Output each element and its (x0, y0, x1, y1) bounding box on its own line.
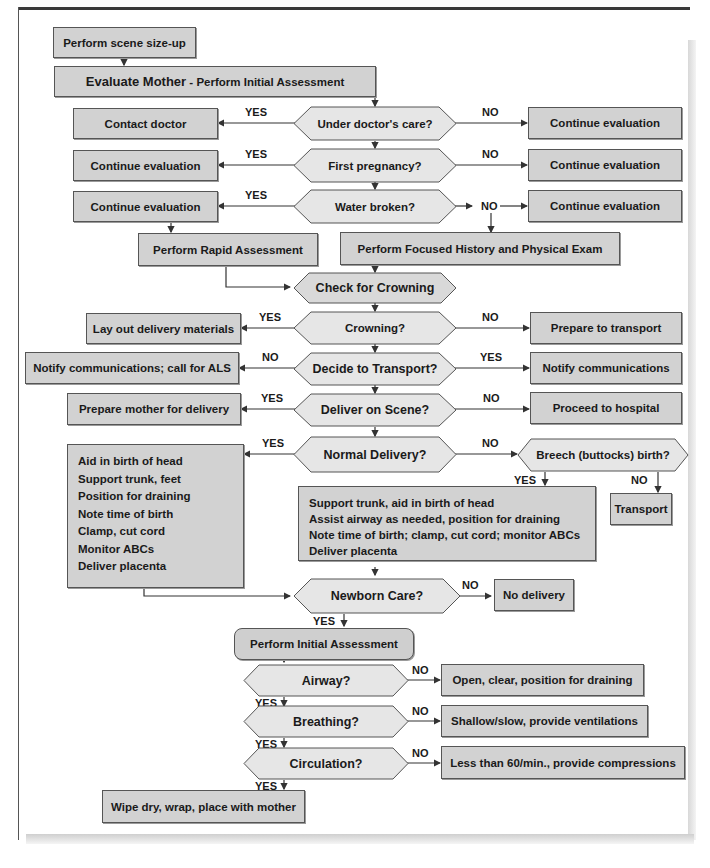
notify-als-label: Notify communications; call for ALS (33, 362, 231, 374)
focused-history-label: Perform Focused History and Physical Exa… (358, 243, 603, 255)
prepare-transport-box: Prepare to transport (530, 312, 682, 344)
contact-doctor-label: Contact doctor (105, 118, 187, 130)
decision-water-broken-label: Water broken? (335, 201, 415, 213)
continue-evaluation-box-1: Continue evaluation (528, 107, 682, 139)
contact-doctor-box: Contact doctor (73, 108, 218, 139)
step: Note time of birth (78, 506, 233, 524)
yes-label: YES (262, 437, 284, 449)
decision-circulation-label: Circulation? (290, 757, 363, 771)
decision-breech-label: Breech (buttocks) birth? (536, 449, 670, 461)
no-label: NO (483, 392, 500, 404)
evaluate-mother-title: Evaluate Mother (86, 74, 186, 89)
step: Aid in birth of head (78, 453, 233, 471)
decision-first-pregnancy: First pregnancy? (293, 148, 457, 183)
check-crowning-hex: Check for Crowning (293, 272, 457, 304)
continue-evaluation-box-3r: Continue evaluation (528, 190, 682, 222)
breech-steps-box: Support trunk, aid in birth of head Assi… (298, 486, 596, 561)
proceed-hospital-label: Proceed to hospital (553, 402, 660, 414)
decision-crowning: Crowning? (293, 311, 457, 345)
circulation-action-label: Less than 60/min., provide compressions (450, 757, 676, 769)
step: Position for draining (78, 488, 233, 506)
decision-airway: Airway? (243, 664, 409, 697)
decision-first-pregnancy-label: First pregnancy? (328, 160, 421, 172)
breathing-action-box: Shallow/slow, provide ventilations (441, 705, 648, 737)
no-label: NO (482, 311, 499, 323)
yes-label: YES (514, 474, 536, 486)
step: Monitor ABCs (78, 541, 233, 559)
airway-action-box: Open, clear, position for draining (441, 664, 644, 696)
no-label: NO (462, 579, 479, 591)
yes-label: YES (245, 189, 267, 201)
no-label: NO (262, 351, 279, 363)
notify-communications-label: Notify communications (542, 362, 669, 374)
no-delivery-label: No delivery (503, 589, 565, 601)
continue-evaluation-box-2r: Continue evaluation (528, 149, 682, 181)
initial-assessment-box: Perform Initial Assessment (234, 628, 414, 660)
decision-doctor-label: Under doctor's care? (317, 118, 432, 130)
yes-label: YES (259, 311, 281, 323)
notify-communications-box: Notify communications (530, 352, 682, 384)
check-crowning-label: Check for Crowning (316, 281, 435, 295)
prepare-transport-label: Prepare to transport (551, 322, 662, 334)
rapid-assessment-box: Perform Rapid Assessment (138, 233, 318, 266)
transport-box: Transport (610, 493, 672, 525)
decision-normal-delivery: Normal Delivery? (293, 436, 457, 473)
rapid-assessment-label: Perform Rapid Assessment (153, 244, 303, 256)
initial-assessment-label: Perform Initial Assessment (250, 638, 398, 650)
prepare-mother-box: Prepare mother for delivery (67, 393, 241, 425)
decision-normal-delivery-label: Normal Delivery? (324, 448, 427, 462)
yes-label: YES (245, 106, 267, 118)
decision-transport: Decide to Transport? (293, 352, 457, 386)
transport-label: Transport (614, 503, 667, 515)
decision-airway-label: Airway? (302, 674, 351, 688)
circulation-action-box: Less than 60/min., provide compressions (441, 746, 685, 779)
step: Clamp, cut cord (78, 523, 233, 541)
decision-circulation: Circulation? (243, 747, 409, 780)
no-label: NO (412, 705, 429, 717)
continue-label: Continue evaluation (550, 200, 660, 212)
final-care-box: Wipe dry, wrap, place with mother (102, 790, 305, 823)
no-label: NO (481, 200, 498, 212)
step: Note time of birth; clamp, cut cord; mon… (309, 527, 585, 543)
decision-breathing-label: Breathing? (293, 715, 359, 729)
airway-action-label: Open, clear, position for draining (452, 674, 632, 686)
final-care-label: Wipe dry, wrap, place with mother (111, 801, 296, 813)
no-label: NO (482, 437, 499, 449)
lay-out-materials-label: Lay out delivery materials (93, 323, 234, 335)
yes-label: YES (245, 148, 267, 160)
no-label: NO (631, 474, 648, 486)
decision-newborn-care: Newborn Care? (293, 578, 461, 614)
continue-evaluation-box-3l: Continue evaluation (73, 191, 218, 222)
continue-label: Continue evaluation (550, 117, 660, 129)
no-label: NO (412, 664, 429, 676)
scene-sizeup-label: Perform scene size-up (63, 37, 186, 49)
decision-deliver-scene-label: Deliver on Scene? (321, 403, 429, 417)
decision-water-broken: Water broken? (293, 189, 457, 224)
continue-label: Continue evaluation (91, 160, 201, 172)
no-label: NO (482, 106, 499, 118)
yes-label: YES (480, 351, 502, 363)
breathing-action-label: Shallow/slow, provide ventilations (451, 715, 638, 727)
no-delivery-box: No delivery (494, 579, 574, 611)
normal-delivery-steps-box: Aid in birth of head Support trunk, feet… (67, 444, 244, 588)
step: Deliver placenta (78, 558, 233, 576)
decision-breathing: Breathing? (243, 705, 409, 738)
yes-label: YES (313, 615, 335, 627)
focused-history-box: Perform Focused History and Physical Exa… (340, 232, 620, 265)
step: Deliver placenta (309, 543, 585, 559)
no-label: NO (482, 148, 499, 160)
decision-doctor-care: Under doctor's care? (293, 106, 457, 141)
decision-crowning-label: Crowning? (345, 322, 405, 334)
evaluate-mother-box: Evaluate Mother - Perform Initial Assess… (54, 66, 376, 97)
decision-deliver-scene: Deliver on Scene? (293, 393, 457, 427)
step: Support trunk, feet (78, 471, 233, 489)
step: Support trunk, aid in birth of head (309, 495, 585, 511)
evaluate-mother-subtitle: - Perform Initial Assessment (186, 76, 344, 88)
decision-transport-label: Decide to Transport? (312, 362, 437, 376)
notify-als-box: Notify communications; call for ALS (25, 352, 239, 384)
lay-out-materials-box: Lay out delivery materials (86, 313, 241, 344)
decision-newborn-label: Newborn Care? (331, 589, 423, 603)
continue-evaluation-box-2l: Continue evaluation (73, 150, 218, 181)
step: Assist airway as needed, position for dr… (309, 511, 585, 527)
proceed-hospital-box: Proceed to hospital (530, 392, 682, 424)
